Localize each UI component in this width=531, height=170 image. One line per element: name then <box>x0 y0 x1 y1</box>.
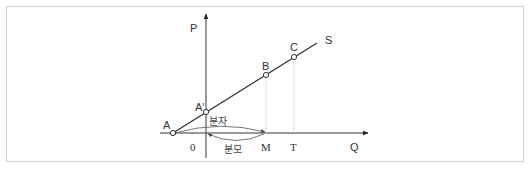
x-axis-label: Q <box>350 141 359 153</box>
point-b <box>263 72 268 77</box>
y-axis-label: P <box>190 22 197 34</box>
label-c: C <box>290 41 298 53</box>
denominator-arc <box>208 134 264 141</box>
numerator-arc <box>175 126 265 133</box>
supply-diagram: P Q 0 S A A' B C M T 분자 분모 <box>0 0 531 170</box>
numerator-label: 분자 <box>209 116 227 127</box>
point-c <box>291 54 296 59</box>
tick-label-t: T <box>290 141 297 153</box>
label-a: A <box>163 119 171 131</box>
origin-label: 0 <box>190 141 196 153</box>
tick-label-m: M <box>261 141 271 153</box>
label-b: B <box>262 60 269 72</box>
curve-label-s: S <box>325 34 332 46</box>
label-a-prime: A' <box>195 101 204 113</box>
point-a <box>170 130 175 135</box>
denominator-label: 분모 <box>224 144 242 155</box>
